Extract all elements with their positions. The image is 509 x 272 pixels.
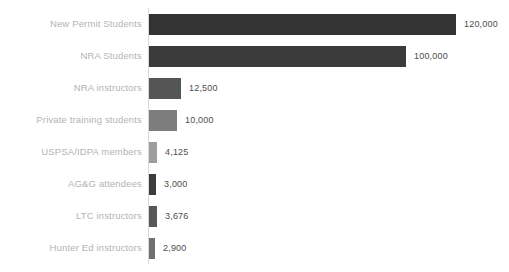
- bar-row: USPSA/IDPA members4,125: [0, 136, 509, 168]
- value-label: 12,500: [189, 84, 218, 93]
- value-label: 120,000: [464, 20, 498, 29]
- bar-rows-container: New Permit Students120,000NRA Students10…: [0, 8, 509, 264]
- category-label: Hunter Ed instructors: [0, 243, 142, 253]
- value-label: 3,000: [164, 180, 188, 189]
- bar-row: LTC instructors3,676: [0, 200, 509, 232]
- bar-and-value: 12,500: [149, 72, 218, 104]
- bar-and-value: 2,900: [149, 232, 187, 264]
- value-label: 3,676: [165, 212, 189, 221]
- bar[interactable]: [149, 46, 406, 67]
- value-label: 4,125: [165, 148, 189, 157]
- bar-row: New Permit Students120,000: [0, 8, 509, 40]
- bar-chart: New Permit Students120,000NRA Students10…: [0, 0, 509, 272]
- bar-and-value: 100,000: [149, 40, 448, 72]
- bar-and-value: 3,000: [149, 168, 188, 200]
- category-label: USPSA/IDPA members: [0, 147, 142, 157]
- category-label: Private training students: [0, 115, 142, 125]
- category-label: AG&G attendees: [0, 179, 142, 189]
- bar-and-value: 4,125: [149, 136, 189, 168]
- bar-row: AG&G attendees3,000: [0, 168, 509, 200]
- bar[interactable]: [149, 206, 157, 227]
- bar-row: Hunter Ed instructors2,900: [0, 232, 509, 264]
- bar[interactable]: [149, 174, 156, 195]
- bar-and-value: 10,000: [149, 104, 214, 136]
- value-label: 10,000: [185, 116, 214, 125]
- bar[interactable]: [149, 142, 157, 163]
- bar[interactable]: [149, 110, 177, 131]
- bar[interactable]: [149, 78, 181, 99]
- category-label: NRA Students: [0, 51, 142, 61]
- bar-and-value: 3,676: [149, 200, 189, 232]
- bar-row: Private training students10,000: [0, 104, 509, 136]
- bar-row: NRA instructors12,500: [0, 72, 509, 104]
- value-label: 100,000: [414, 52, 448, 61]
- category-label: NRA instructors: [0, 83, 142, 93]
- bar-row: NRA Students100,000: [0, 40, 509, 72]
- category-label: New Permit Students: [0, 19, 142, 29]
- category-label: LTC instructors: [0, 211, 142, 221]
- value-label: 2,900: [163, 244, 187, 253]
- bar-and-value: 120,000: [149, 8, 498, 40]
- bar[interactable]: [149, 238, 155, 259]
- bar[interactable]: [149, 14, 456, 35]
